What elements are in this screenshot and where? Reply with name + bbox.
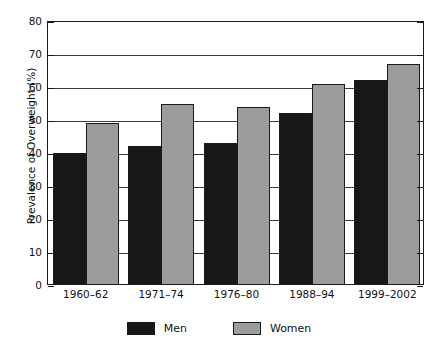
- axis-tick: [48, 121, 54, 122]
- y-tick-label: 30: [6, 180, 42, 192]
- bar-men-1988-94[interactable]: [279, 113, 312, 285]
- bar-group: [53, 21, 119, 285]
- bar-men-1999-2002[interactable]: [354, 80, 387, 285]
- bar-chart: Prevalence of Overweight (%) 80706050403…: [0, 0, 438, 344]
- chart-title-remnant: [0, 0, 438, 9]
- bar-men-1960-62[interactable]: [53, 153, 86, 285]
- axis-tick: [48, 187, 54, 188]
- gray-swatch-icon: [233, 322, 261, 335]
- y-tick-label: 50: [6, 114, 42, 126]
- axis-tick: [48, 88, 54, 89]
- y-tick-label: 0: [6, 279, 42, 291]
- legend-label-women: Women: [270, 322, 311, 335]
- axis-tick: [417, 121, 423, 122]
- axis-tick: [48, 220, 54, 221]
- axis-tick: [417, 88, 423, 89]
- y-tick-label: 60: [6, 81, 42, 93]
- legend-item-men[interactable]: Men: [127, 322, 187, 335]
- axis-tick: [48, 154, 54, 155]
- legend-item-women[interactable]: Women: [233, 322, 311, 335]
- y-tick-label: 10: [6, 246, 42, 258]
- x-tick-label: 1976–80: [214, 288, 259, 300]
- bar-group: [128, 21, 194, 285]
- black-swatch-icon: [127, 322, 155, 335]
- bar-women-1988-94[interactable]: [312, 84, 345, 285]
- axis-tick: [417, 187, 423, 188]
- y-tick-label: 80: [6, 15, 42, 27]
- x-tick-label: 1971–74: [138, 288, 183, 300]
- x-tick-label: 1999–2002: [358, 288, 417, 300]
- bar-men-1971-74[interactable]: [128, 146, 161, 285]
- axis-tick: [417, 154, 423, 155]
- axis-tick: [417, 286, 423, 287]
- bar-men-1976-80[interactable]: [204, 143, 237, 285]
- y-tick-label: 40: [6, 147, 42, 159]
- axis-tick: [417, 22, 423, 23]
- chart-legend: Men Women: [0, 318, 438, 338]
- axis-tick: [48, 253, 54, 254]
- axis-tick: [48, 22, 54, 23]
- bar-group: [354, 21, 420, 285]
- bar-group: [204, 21, 270, 285]
- x-tick-label: 1960–62: [63, 288, 108, 300]
- bars-layer: [47, 21, 424, 285]
- legend-label-men: Men: [164, 322, 187, 335]
- bar-women-1976-80[interactable]: [237, 107, 270, 285]
- axis-tick: [48, 286, 54, 287]
- axis-tick: [417, 55, 423, 56]
- x-tick-label: 1988–94: [289, 288, 334, 300]
- axis-tick: [48, 55, 54, 56]
- y-tick-label: 20: [6, 213, 42, 225]
- bar-women-1999-2002[interactable]: [387, 64, 420, 285]
- x-axis-tick-labels: 1960–621971–741976–801988–941999–2002: [47, 288, 424, 304]
- bar-women-1971-74[interactable]: [161, 104, 194, 286]
- axis-tick: [417, 220, 423, 221]
- bar-group: [279, 21, 345, 285]
- y-axis-tick-labels: 80706050403020100: [0, 21, 42, 285]
- y-tick-label: 70: [6, 48, 42, 60]
- bar-women-1960-62[interactable]: [86, 123, 119, 285]
- axis-tick: [417, 253, 423, 254]
